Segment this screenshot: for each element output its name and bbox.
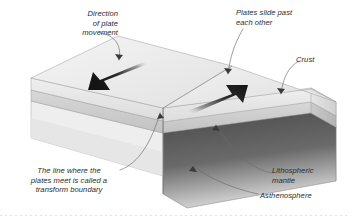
label-asthenosphere: Asthenosphere bbox=[260, 191, 348, 201]
label-crust: Crust bbox=[296, 55, 346, 65]
bottom-dotted-divider bbox=[0, 215, 350, 216]
label-lithospheric-mantle: Lithospheric mantle bbox=[272, 166, 346, 185]
diagram-canvas: Direction of plate movement Plates slide… bbox=[0, 0, 350, 221]
label-direction-of-plate-movement: Direction of plate movement bbox=[30, 9, 118, 38]
label-plates-slide-past: Plates slide past each other bbox=[236, 8, 340, 27]
label-transform-boundary: The line where the plates meet is called… bbox=[8, 166, 130, 195]
